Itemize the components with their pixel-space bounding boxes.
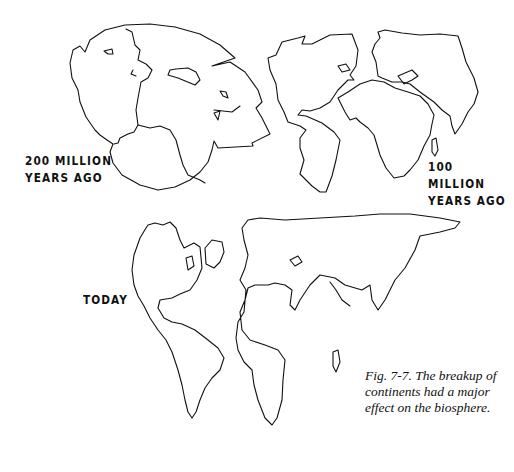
label-line: TODAY — [83, 291, 128, 308]
figure-caption: Fig. 7-7. The breakup of continents had … — [365, 368, 514, 416]
label-line: YEARS AGO — [428, 193, 514, 210]
label-line: 100 MILLION — [428, 158, 514, 193]
label-line: YEARS AGO — [25, 169, 112, 186]
label-today: TODAY — [83, 291, 128, 308]
label-200-million-years-ago: 200 MILLION YEARS AGO — [25, 152, 112, 187]
label-100-million-years-ago: 100 MILLION YEARS AGO — [428, 158, 514, 210]
label-line: 200 MILLION — [25, 152, 112, 169]
